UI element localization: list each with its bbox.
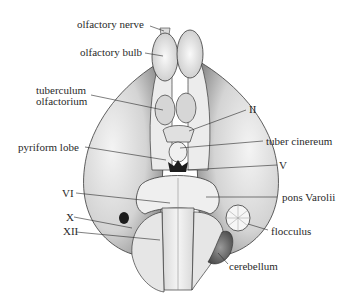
label-flocculus: flocculus: [271, 226, 311, 237]
label-vagus-X: X: [66, 212, 74, 223]
label-olfactory-nerve: olfactory nerve: [77, 19, 144, 30]
label-hypoglossal-XII: XII: [63, 226, 78, 237]
label-cerebellum: cerebellum: [229, 261, 278, 272]
label-trigeminal-V: V: [279, 160, 287, 171]
flocculus-shape: [226, 205, 250, 231]
label-olfactory-bulb: olfactory bulb: [80, 47, 142, 58]
left-olfactory-bulb: [152, 33, 178, 81]
optic-chiasma: [163, 126, 194, 143]
label-tuber-cinereum: tuber cinereum: [266, 136, 332, 147]
label-pons-varolii: pons Varolii: [282, 192, 335, 203]
left-dark-spot: [119, 212, 129, 224]
label-pyriform-lobe: pyriform lobe: [18, 142, 79, 153]
left-tuberculum: [155, 95, 175, 125]
label-tuberculum-olfactorium: tuberculum olfactorium: [36, 85, 87, 107]
label-optic-nerve-II: II: [249, 104, 256, 115]
right-tuberculum: [176, 93, 196, 123]
label-abducens-VI: VI: [62, 188, 74, 199]
tuber-cinereum-shape: [169, 142, 187, 162]
right-olfactory-bulb: [177, 30, 203, 78]
